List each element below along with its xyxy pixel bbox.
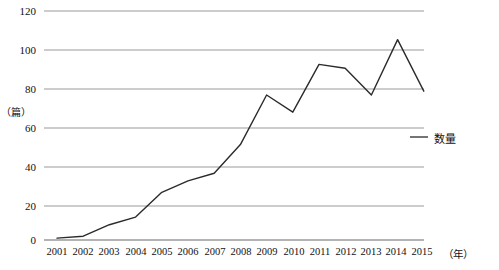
line-chart: （篇） 120 100 80 60 40 20 0 数量 2001 2002 2… xyxy=(0,0,499,270)
x-axis-unit-label: （年） xyxy=(443,246,473,261)
gridlines xyxy=(44,11,424,240)
x-tick-label-2015: 2015 xyxy=(403,246,441,257)
legend-label-quantity: 数量 xyxy=(434,130,456,146)
data-series-line-quantity xyxy=(57,40,424,238)
plot-area xyxy=(0,0,499,270)
